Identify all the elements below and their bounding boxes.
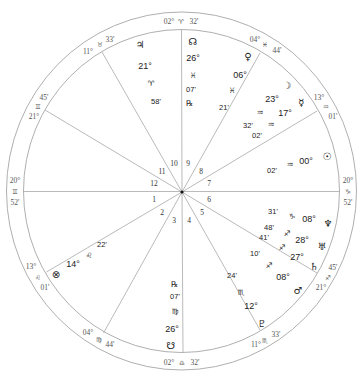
- cusp-ic-deg: 02°: [164, 358, 175, 367]
- uranus-minutes: 48': [264, 223, 274, 232]
- cusp-ic-min: 32': [191, 358, 201, 367]
- venus-degree: 06°: [233, 70, 247, 80]
- planet-north-node: ☊ 26° ♓ 07' ℞: [186, 36, 201, 108]
- house-number-6: 6: [207, 195, 211, 204]
- cusp-dsc-sign: ♑: [345, 188, 351, 196]
- moon-minutes: 32': [243, 121, 253, 130]
- sun-sign: ♒: [287, 160, 294, 169]
- saturn-icon: ♄: [310, 261, 319, 272]
- saturn-sign: ♐: [279, 243, 286, 252]
- house-line-ic: [182, 192, 183, 353]
- south-node-icon: ☋: [167, 340, 176, 351]
- cusp-2-deg: 13°: [26, 262, 37, 271]
- cusp-11-min: 33': [106, 35, 116, 44]
- cusp-5-sign: ♏: [262, 337, 268, 345]
- neptune-minutes: 31': [268, 207, 278, 216]
- sun-icon: ☉: [323, 151, 332, 162]
- part-of-fortune-degree: 14°: [66, 259, 80, 269]
- north-node-degree: 26°: [186, 53, 200, 63]
- house-number-4: 4: [187, 216, 191, 225]
- cusp-6-min: 45': [329, 263, 339, 272]
- cusp-8-sign: ♒: [323, 103, 329, 111]
- jupiter-degree: 21°: [138, 61, 152, 71]
- venus-minutes: 21': [219, 103, 229, 112]
- uranus-degree: 28°: [295, 235, 309, 245]
- mercury-degree: 17°: [278, 108, 292, 118]
- cusp-11-deg: 11°: [83, 47, 93, 56]
- north-node-icon: ☊: [189, 36, 198, 47]
- cusp-9-deg: 04°: [250, 35, 261, 44]
- house-line-11: [102, 52, 182, 192]
- cusp-3-min: 44': [106, 340, 116, 349]
- planet-south-node: ℞ 07' ♍ 26° ☋: [165, 280, 180, 351]
- cusp-dsc-deg: 20°: [343, 176, 354, 185]
- cusp-8-min: 01': [329, 112, 339, 121]
- neptune-sign: ♑: [289, 212, 296, 221]
- jupiter-icon: ♃: [136, 39, 145, 50]
- house-number-2: 2: [160, 208, 164, 217]
- sun-degree: 00°: [299, 156, 313, 166]
- cusp-6-deg: 21°: [316, 283, 327, 292]
- venus-icon: ♀: [244, 51, 251, 62]
- jupiter-sign: ♈: [148, 79, 155, 88]
- mercury-sign: ♒: [268, 120, 275, 129]
- moon-icon: ☽: [283, 80, 292, 91]
- south-node-degree: 26°: [165, 324, 179, 334]
- house-number-10: 10: [170, 159, 178, 168]
- north-node-sign: ♓: [190, 71, 197, 80]
- house-line-mc: [182, 30, 183, 193]
- cusp-mc-min: 32': [190, 17, 200, 26]
- neptune-icon: ♆: [324, 218, 333, 229]
- pluto-sign: ♏: [238, 288, 245, 297]
- house-number-11: 11: [158, 167, 165, 176]
- cusp-11-sign: ♉: [97, 41, 103, 49]
- pluto-icon: ♇: [258, 318, 267, 329]
- planet-uranus: ♅ 28° ♐ 48': [264, 223, 326, 252]
- house-number-12: 12: [150, 179, 158, 188]
- neptune-degree: 08°: [302, 214, 316, 224]
- part-of-fortune-minutes: 22': [97, 240, 107, 249]
- cusp-ic-sign: ♎: [179, 359, 185, 367]
- cusp-9-min: 44': [273, 46, 283, 55]
- natal-chart-wheel: 1 2 3 4 5 6 7 8 9 10 11 12 02° ♈ 32' 02°…: [0, 0, 364, 378]
- south-node-minutes: 07': [170, 292, 180, 301]
- pluto-degree: 12°: [244, 301, 258, 311]
- cusp-9-sign: ♓: [262, 41, 268, 49]
- cusp-mc-deg: 02°: [164, 17, 175, 26]
- north-node-minutes: 07': [186, 85, 196, 94]
- pluto-minutes: 24': [227, 271, 237, 280]
- cusp-12-min: 45': [40, 93, 50, 102]
- mars-minutes: 10': [250, 249, 260, 258]
- cusp-5-min: 33': [272, 330, 282, 339]
- moon-sign: ♒: [257, 108, 264, 117]
- house-number-3: 3: [172, 216, 176, 225]
- cusp-12-sign: ♊: [35, 103, 41, 111]
- cusp-2-sign: ♌: [35, 274, 41, 282]
- venus-sign: ♓: [229, 86, 236, 95]
- house-line-12: [45, 110, 182, 192]
- house-number-8: 8: [199, 167, 203, 176]
- mars-icon: ♂: [294, 285, 303, 296]
- mercury-icon: ☿: [298, 97, 304, 108]
- south-node-retrograde-icon: ℞: [171, 280, 178, 289]
- south-node-sign: ♍: [172, 307, 179, 316]
- uranus-icon: ♅: [318, 241, 327, 252]
- cusp-asc-sign: ♊: [12, 188, 18, 196]
- mars-sign: ♐: [266, 261, 273, 270]
- part-of-fortune: ⊗ 14° ♌ 22': [52, 240, 108, 280]
- cusp-8-deg: 13°: [314, 93, 325, 102]
- saturn-degree: 27°: [290, 252, 304, 262]
- center-dot: [180, 190, 183, 193]
- cusp-3-sign: ♍: [96, 336, 102, 344]
- uranus-sign: ♐: [284, 229, 291, 238]
- cusp-3-deg: 04°: [83, 328, 94, 337]
- cusp-2-min: 01': [41, 283, 51, 292]
- planet-sun: ☉ 00° ♒ 02': [267, 151, 331, 175]
- planet-jupiter: ♃ 21° ♈ 58': [136, 39, 162, 106]
- house-line-3: [104, 192, 183, 333]
- saturn-minutes: 41': [259, 233, 269, 242]
- moon-degree: 23°: [265, 94, 279, 104]
- cusp-mc-sign: ♈: [178, 18, 184, 26]
- jupiter-minutes: 58': [151, 97, 161, 106]
- planet-venus: ♀ 06° ♓ 21': [219, 51, 252, 112]
